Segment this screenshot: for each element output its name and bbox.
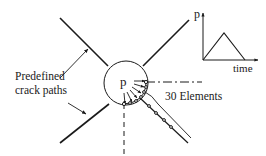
crack-paths-label-line1: Predefined [15, 70, 65, 82]
crack-diagram: p 30 Elements Predefined crack paths p t… [0, 0, 266, 156]
inset-x-axis-label: time [233, 62, 253, 74]
crack-path-lower-left [60, 104, 109, 143]
crack-path-upper-right [143, 20, 189, 66]
label-arrow-lower [68, 103, 86, 114]
inset-y-axis-label: p [194, 7, 200, 21]
load-pulse-curve [203, 33, 245, 60]
load-point-label: p [120, 74, 127, 89]
crack-path-upper-left [60, 18, 108, 66]
load-time-inset [203, 13, 258, 60]
elements-label: 30 Elements [165, 90, 223, 102]
crack-paths-label-line2: crack paths [15, 84, 68, 97]
label-arrow-upper [60, 49, 88, 78]
